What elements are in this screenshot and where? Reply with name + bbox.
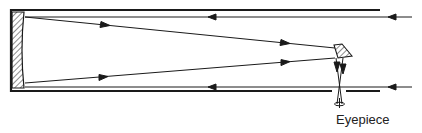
secondary-mirror	[334, 44, 352, 58]
reflected-rays	[25, 17, 335, 83]
arrow-right-icon	[281, 60, 290, 66]
arrow-right-icon	[100, 22, 110, 28]
arrow-left-icon	[388, 14, 396, 20]
arrow-left-icon	[208, 84, 216, 90]
arrow-left-icon	[208, 14, 216, 20]
arrow-right-icon	[99, 75, 108, 81]
arrow-left-icon	[388, 84, 396, 90]
arrow-down-icon	[334, 62, 340, 72]
eyepiece-lens	[335, 98, 345, 108]
arrow-right-icon	[280, 40, 290, 46]
primary-mirror	[12, 12, 24, 88]
telescope-tube	[11, 10, 380, 91]
eyepiece-label: Eyepiece	[336, 112, 389, 127]
eyepiece-rays	[334, 58, 346, 104]
